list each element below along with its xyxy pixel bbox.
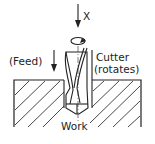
feed-label: (Feed) (9, 56, 42, 67)
axis-label: X (83, 11, 90, 22)
work-label: Work (60, 121, 89, 132)
cutter-rotates-label: (rotates) (94, 64, 139, 75)
feed-arrow-icon (51, 50, 57, 72)
x-axis-arrow-icon (75, 4, 81, 28)
drill-cutter (65, 48, 88, 114)
cutter-label: Cutter (96, 52, 129, 63)
rotation-arrow-icon (71, 38, 86, 45)
